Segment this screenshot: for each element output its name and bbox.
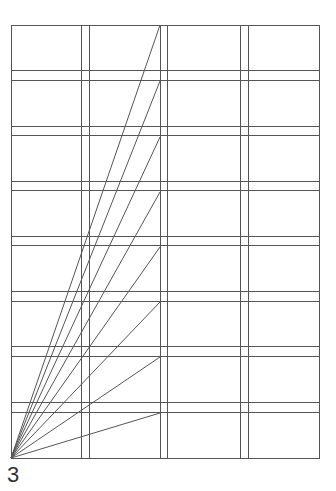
fan-line bbox=[11, 137, 160, 458]
frame-border bbox=[12, 26, 320, 459]
figure-label: 3 bbox=[7, 464, 19, 486]
fan-line bbox=[11, 357, 160, 458]
grid-fan-diagram bbox=[0, 0, 336, 491]
fan-line bbox=[11, 413, 160, 458]
fan-line bbox=[11, 25, 160, 458]
fan-line bbox=[11, 247, 160, 458]
fan-line bbox=[11, 81, 160, 458]
